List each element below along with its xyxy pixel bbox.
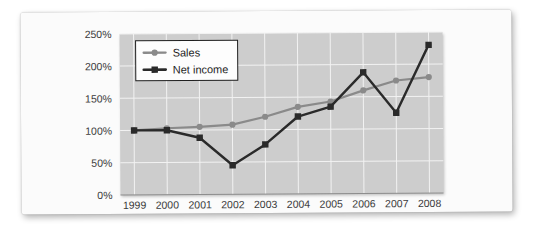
data-point-marker [393, 77, 399, 83]
x-axis-tick-label: 2001 [188, 198, 212, 210]
legend-label: Net income [173, 63, 229, 75]
x-axis-tick-label: 2003 [254, 198, 278, 210]
data-point-marker [426, 74, 432, 80]
x-axis-tick-label: 2000 [156, 199, 180, 211]
data-point-marker [262, 141, 268, 147]
line-chart-figure: 0%50%100%150%200%250% 199920002001200220… [20, 10, 512, 215]
gridline-horizontal [120, 32, 443, 34]
x-axis-line [121, 193, 444, 195]
chart-legend: SalesNet income [136, 40, 238, 81]
data-point-marker [327, 103, 333, 109]
data-point-marker [197, 124, 203, 130]
data-point-marker [393, 109, 399, 115]
gridline-vertical [265, 33, 266, 194]
y-axis-tick-label: 200% [85, 60, 112, 72]
data-point-marker [262, 114, 268, 120]
y-axis-tick-labels: 0%50%100%150%200%250% [85, 28, 113, 201]
data-point-marker [196, 135, 202, 141]
data-point-marker [229, 122, 235, 128]
y-axis-tick-label: 250% [85, 28, 112, 40]
data-point-marker [360, 87, 366, 93]
x-axis-tick-label: 2008 [418, 197, 442, 209]
data-point-marker [360, 69, 366, 75]
legend-swatch-marker [152, 66, 158, 72]
x-axis-tick-label: 2005 [320, 198, 344, 210]
y-axis-tick-label: 150% [85, 92, 112, 104]
data-point-marker [164, 127, 170, 133]
gridline-horizontal [120, 96, 443, 98]
data-point-marker [229, 162, 235, 168]
y-axis-tick-label: 0% [97, 189, 112, 201]
x-axis-tick-label: 2002 [221, 198, 245, 210]
data-point-marker [131, 127, 137, 133]
legend-label: Sales [173, 46, 201, 58]
y-axis-tick-label: 100% [85, 125, 112, 137]
x-axis-tick-label: 2004 [287, 198, 311, 210]
chart-card: 0%50%100%150%200%250% 199920002001200220… [20, 10, 512, 215]
x-axis-tick-label: 1999 [123, 199, 147, 211]
gridline-vertical [363, 32, 364, 193]
legend-swatch-marker [152, 50, 158, 56]
screenshot-root: 0%50%100%150%200%250% 199920002001200220… [0, 0, 535, 231]
x-axis-tick-labels: 1999200020012002200320042005200620072008 [123, 197, 442, 211]
data-point-marker [425, 42, 431, 48]
series-line-sales [134, 77, 429, 130]
data-point-marker [295, 113, 301, 119]
gridline-vertical [134, 34, 135, 195]
gridline-vertical [429, 32, 430, 193]
gridline-horizontal [120, 161, 443, 163]
data-point-marker [295, 104, 301, 110]
y-axis-tick-label: 50% [91, 157, 112, 169]
x-axis-tick-label: 2006 [352, 197, 376, 209]
gridline-vertical [297, 33, 298, 194]
x-axis-tick-label: 2007 [385, 197, 409, 209]
gridline-vertical [330, 33, 331, 194]
chart-svg: 0%50%100%150%200%250% 199920002001200220… [20, 10, 512, 215]
